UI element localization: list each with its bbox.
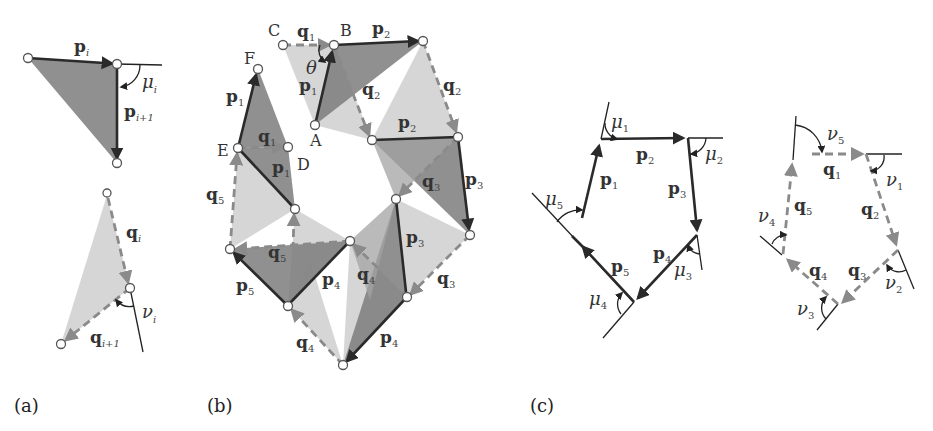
b-node-C [279,41,288,50]
b-label-p2-top: p2 [372,18,390,40]
c-label-p4: p4 [653,243,671,265]
label-p-i: pi [74,36,89,58]
b-label-q2-diag: q2 [362,79,380,101]
b-label-D: D [297,155,310,174]
panel-b: C B A F E D θ q1 p2 p1 q2 q2 p2 p1 q1 p1… [206,18,483,416]
c-edge-p4 [638,235,697,298]
b-label-q5-left: q5 [206,184,224,206]
c-ext-line-3 [697,235,702,270]
b-node [403,293,412,302]
c-q-ext-line-4 [760,236,782,255]
b-label-q2-right: q2 [443,75,461,97]
c-label-p3: p3 [668,178,686,200]
c-label-mu1: μ1 [611,111,629,134]
panel-a-node [113,159,122,168]
c-arc-nu1 [871,155,884,171]
origami-polygon-figure: pi pi+1 μi qi qi+1 νi (a) [0,0,933,431]
b-node [291,205,300,214]
c-arc-nu3 [822,297,826,319]
b-label-B: B [340,21,352,40]
panel-a: pi pi+1 μi qi qi+1 νi (a) [14,36,162,416]
c-arc-nu5 [795,125,822,152]
b-node-B [330,41,339,50]
panel-a-light-triangle [61,195,130,344]
c-arc-mu3 [688,245,699,254]
label-p-i1: pi+1 [124,101,154,123]
label-q-i: qi [126,222,141,244]
c-label-nu4: ν4 [758,205,775,228]
c-label-mu2: μ2 [705,143,723,166]
c-arc-mu4 [618,293,622,314]
c-label-mu4: μ4 [589,288,607,311]
c-label-q4: q4 [809,260,827,282]
panel-a-node [126,284,135,293]
b-label-q3-right: q3 [437,268,455,290]
c-label-q3: q3 [848,260,866,282]
b-node-E [234,144,243,153]
c-label-p2: p2 [636,144,654,166]
panel-a-node [24,54,33,63]
b-label-p3-right: p3 [465,169,483,191]
panel-a-angle-mu-arc [121,65,140,87]
b-label-p5: p5 [236,275,254,297]
c-label-q5: q5 [794,195,812,217]
c-edge-q5 [783,165,792,254]
c-label-nu3: ν3 [797,298,814,321]
c-label-nu2: ν2 [885,272,902,295]
c-q-ext-line-3 [817,304,838,330]
b-node [466,231,475,240]
b-label-p1-EF: p1 [226,86,244,108]
panel-a-node [57,340,66,349]
label-nu-i: νi [142,301,156,325]
caption-b: (b) [207,395,233,416]
caption-c: (c) [530,395,554,416]
c-edge-p5-rest [572,236,585,249]
c-edge-p1 [582,146,599,218]
c-label-mu5: μ5 [545,188,563,211]
c-q-ext-line-5 [793,116,796,160]
c-arc-nu2 [887,265,906,272]
c-label-mu3: μ3 [674,259,692,282]
c-arc-mu2 [691,138,706,154]
panel-a-dark-triangle [28,58,117,163]
panel-c-q-polygon: q1 q2 q3 q4 q5 ν5 ν1 ν2 ν3 ν4 [758,116,914,330]
c-label-nu5: ν5 [827,123,844,146]
b-label-p4-left: p4 [322,269,340,291]
panel-a-node [113,60,122,69]
c-edge-p3 [688,138,697,230]
panel-a-node [103,189,111,197]
b-node [419,37,428,46]
b-node [226,245,235,254]
b-label-A: A [309,131,322,150]
b-node [368,136,377,145]
b-label-q1-top: q1 [297,21,315,43]
b-node [346,237,355,246]
c-label-nu1: ν1 [886,169,903,192]
panel-c-p-polygon: p1 p2 p3 p4 p5 μ1 μ2 μ3 μ4 μ5 (c) [530,102,723,416]
b-node-D [284,143,293,152]
c-label-q2: q2 [861,199,879,221]
b-label-p4-right: p4 [380,327,398,349]
panel-a-extension-line [117,64,162,65]
b-label-E: E [217,141,229,160]
b-node [392,195,401,204]
panel-a-angle-nu-arc [116,300,134,306]
b-label-q4-bottom: q4 [296,332,314,354]
b-node [284,302,293,311]
b-node [339,361,348,370]
label-mu-i: μi [142,71,157,95]
c-label-p5: p5 [611,256,629,278]
caption-a: (a) [14,395,39,416]
b-node-A [311,121,320,130]
c-label-q1: q1 [823,159,841,181]
b-label-C: C [268,21,280,40]
c-arc-mu5 [557,210,582,222]
b-node [454,133,463,142]
b-label-F: F [244,49,255,68]
c-label-p1: p1 [600,169,618,191]
label-q-i1: qi+1 [90,327,120,349]
